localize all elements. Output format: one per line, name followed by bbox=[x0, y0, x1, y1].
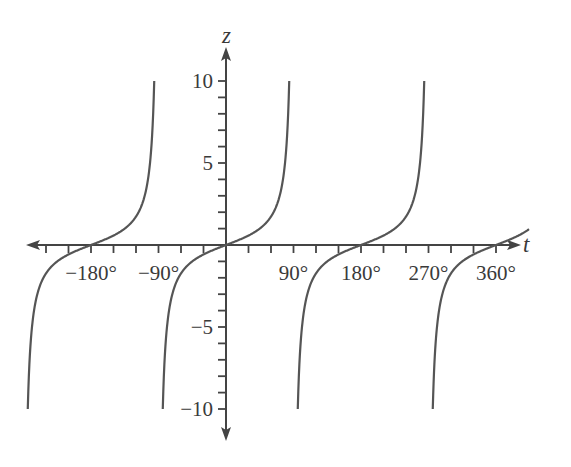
x-tick-label: 360° bbox=[476, 261, 516, 285]
tan-curve-branch bbox=[433, 229, 529, 409]
y-axis-label: z bbox=[221, 23, 231, 48]
x-tick-label: −90° bbox=[138, 261, 179, 285]
y-tick-label: 5 bbox=[203, 151, 214, 175]
x-tick-label: −180° bbox=[65, 261, 117, 285]
x-tick-label: 270° bbox=[409, 261, 449, 285]
x-tick-label: 90° bbox=[279, 261, 308, 285]
x-tick-label: 180° bbox=[341, 261, 381, 285]
y-tick-label: 10 bbox=[192, 69, 213, 93]
y-tick-label: −5 bbox=[191, 315, 213, 339]
ticks bbox=[46, 81, 496, 409]
x-axis-label: t bbox=[523, 232, 530, 257]
axes bbox=[26, 47, 521, 441]
tan-plot: −180°−90°90°180°270°360°105−5−10 z t bbox=[0, 0, 571, 467]
y-tick-label: −10 bbox=[180, 397, 213, 421]
